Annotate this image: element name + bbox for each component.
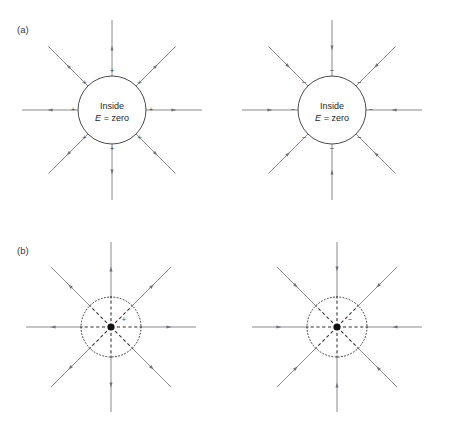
panel-a-right-charge-sign: − bbox=[369, 105, 374, 114]
panel-b-left-field-arrow bbox=[166, 325, 171, 328]
panel-a-label: (a) bbox=[17, 24, 29, 35]
panel-b-left-charge-sign: + bbox=[122, 315, 127, 324]
figure-canvas: (a)++++++++InsideE = zero−−−−−−−−InsideE… bbox=[0, 0, 450, 443]
panel-b-right-charge-sign: − bbox=[348, 315, 353, 324]
panel-b-right-field-arrow bbox=[335, 266, 338, 271]
panel-b-left-dashed-radial bbox=[111, 327, 133, 349]
panel-a-left-field-value: = zero bbox=[101, 113, 129, 123]
panel-a-left-field-arrow bbox=[110, 45, 113, 50]
panel-a-right-charge-sign: − bbox=[291, 105, 296, 114]
panel-a-right-field-value: = zero bbox=[321, 113, 349, 123]
panel-a-left-charge-sign: + bbox=[82, 78, 87, 87]
panel-b-right-point-charge-dot bbox=[333, 323, 340, 330]
panel-a-right-inside-label-line2: E = zero bbox=[315, 113, 349, 123]
panel-a-right-charge-sign: − bbox=[302, 133, 307, 142]
panel-a-left-inside-label-line1: Inside bbox=[100, 101, 124, 111]
panel-a-left-charge-sign: + bbox=[110, 66, 115, 75]
panel-a-right-charge-sign: − bbox=[357, 78, 362, 87]
panel-a-right-charge-sign: − bbox=[357, 133, 362, 142]
panel-b-right: − bbox=[252, 242, 422, 412]
panel-a-left: ++++++++InsideE = zero bbox=[22, 20, 202, 200]
panel-b-right-dashed-radial bbox=[315, 305, 337, 327]
panel-b-left-field-arrow bbox=[109, 266, 112, 271]
panel-a-left-charge-sign: + bbox=[137, 78, 142, 87]
panel-b-left: + bbox=[26, 242, 196, 412]
panel-b: (b)+− bbox=[17, 242, 422, 412]
panel-b-right-field-arrow bbox=[276, 325, 281, 328]
electric-field-figure: (a)++++++++InsideE = zero−−−−−−−−InsideE… bbox=[0, 0, 450, 443]
panel-a-right-field-arrow bbox=[330, 169, 333, 174]
panel-b-left-point-charge-dot bbox=[107, 323, 114, 330]
panel-a-left-charge-sign: + bbox=[71, 105, 76, 114]
panel-a-left-charge-sign: + bbox=[110, 144, 115, 153]
panel-b-left-dashed-radial bbox=[89, 305, 111, 327]
panel-a-left-field-arrow bbox=[171, 108, 176, 111]
panel-a: (a)++++++++InsideE = zero−−−−−−−−InsideE… bbox=[17, 20, 422, 200]
panel-a-right-charge-sign: − bbox=[330, 144, 335, 153]
panel-a-right-charge-sign: − bbox=[330, 66, 335, 75]
panel-b-right-dashed-radial bbox=[315, 327, 337, 349]
panel-b-right-field-arrow bbox=[392, 325, 397, 328]
panel-a-left-field-arrow bbox=[110, 169, 113, 174]
panel-a-left-charge-sign: + bbox=[137, 133, 142, 142]
panel-b-left-field-arrow bbox=[109, 382, 112, 387]
panel-b-right-dashed-radial bbox=[337, 327, 359, 349]
panel-a-right: −−−−−−−−InsideE = zero bbox=[242, 20, 422, 200]
panel-a-right-field-arrow bbox=[267, 108, 272, 111]
panel-a-right-inside-label-line1: Inside bbox=[320, 101, 344, 111]
panel-a-right-field-arrow bbox=[330, 45, 333, 50]
panel-a-left-inside-label-line2: E = zero bbox=[95, 113, 129, 123]
panel-a-left-charge-sign: + bbox=[82, 133, 87, 142]
panel-a-left-field-arrow bbox=[47, 108, 52, 111]
panel-b-left-field-arrow bbox=[50, 325, 55, 328]
panel-a-right-field-arrow bbox=[391, 108, 396, 111]
panel-a-right-charge-sign: − bbox=[302, 78, 307, 87]
panel-a-left-charge-sign: + bbox=[149, 105, 154, 114]
panel-b-left-dashed-radial bbox=[89, 327, 111, 349]
panel-b-label: (b) bbox=[17, 245, 29, 256]
panel-b-right-field-arrow bbox=[335, 382, 338, 387]
